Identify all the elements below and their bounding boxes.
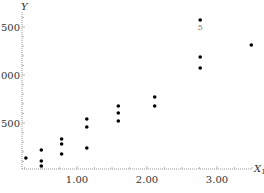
y-tick-label: 500 (1, 118, 20, 129)
y-axis-title: Y (21, 1, 29, 12)
data-point (24, 156, 28, 160)
data-point (60, 152, 64, 156)
data-point (117, 111, 121, 115)
data-point (117, 104, 121, 108)
y-tick-label: 1500 (0, 22, 20, 33)
data-point (40, 148, 44, 152)
data-point (60, 142, 64, 146)
data-point (117, 119, 121, 123)
data-point (198, 66, 202, 70)
axes (22, 12, 252, 169)
x-axis-title: X1 (253, 163, 264, 176)
data-point (85, 146, 89, 150)
point-label: 5 (198, 23, 203, 32)
ticks: 500100015001.002.003.00 (0, 17, 252, 185)
data-point (153, 104, 157, 108)
y-tick-label: 1000 (0, 70, 20, 81)
scatter-chart: 500100015001.002.003.00 5 Y X1 (0, 0, 264, 193)
data-points: 5 (24, 18, 253, 168)
data-point (40, 164, 44, 168)
data-point (40, 159, 44, 163)
data-point (85, 117, 89, 121)
x-tick-label: 1.00 (66, 174, 88, 185)
data-point (198, 55, 202, 59)
x-tick-label: 3.00 (206, 174, 228, 185)
data-point (85, 125, 89, 129)
data-point (153, 95, 157, 99)
data-point (250, 43, 254, 47)
data-point (60, 137, 64, 141)
x-tick-label: 2.00 (136, 174, 158, 185)
data-point (198, 18, 202, 22)
